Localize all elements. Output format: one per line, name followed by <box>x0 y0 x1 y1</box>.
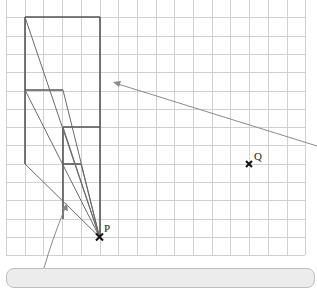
annotation-arrow-right <box>113 81 317 146</box>
grid <box>6 0 306 256</box>
point-p-label: P <box>104 222 110 234</box>
callout-box <box>6 268 315 288</box>
arrowhead-icon <box>113 81 121 87</box>
point-q-label: Q <box>254 150 262 162</box>
annotation-arrow-bottom <box>44 203 68 268</box>
